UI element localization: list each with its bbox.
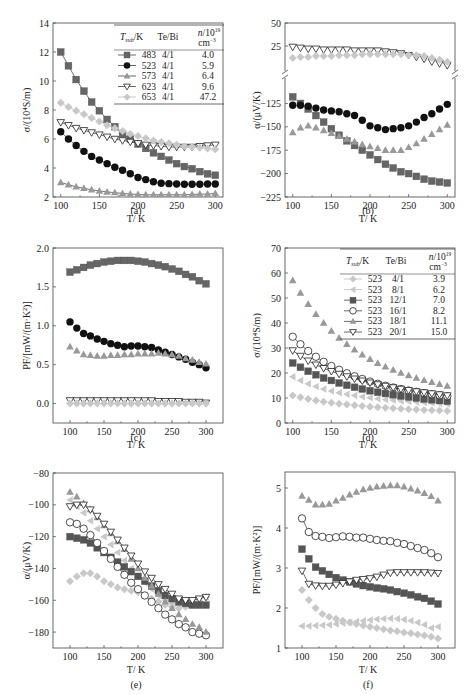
data-point-circle-marker	[289, 102, 296, 109]
data-point-circle-open-marker	[196, 630, 203, 637]
data-point-triangle-marker	[428, 378, 436, 385]
data-point-circle-open-marker	[319, 533, 326, 540]
y-tick-label: 60	[271, 268, 281, 279]
legend-n: 9.6	[202, 82, 214, 92]
data-point-triangle-marker	[358, 351, 366, 358]
y-tick-label: 50	[271, 18, 281, 29]
y-tick-label: 5	[276, 483, 281, 494]
data-point-circle-open-marker	[134, 585, 141, 592]
x-tick-label: 200	[131, 651, 146, 662]
data-point-square-marker	[380, 585, 387, 592]
data-point-square-marker	[359, 147, 366, 154]
data-point-circle-marker	[96, 156, 103, 163]
data-point-triangle-marker	[289, 277, 297, 284]
x-tick-label: 300	[199, 426, 214, 437]
data-point-triangle-left-marker	[304, 380, 311, 388]
legend-n: 3.9	[433, 274, 445, 284]
data-point-triangle-marker	[359, 486, 367, 493]
legend-n: 8.2	[433, 306, 445, 316]
data-point-diamond-marker	[420, 52, 428, 60]
y-tick-label: −225	[260, 192, 281, 203]
legend-tsub: 523	[368, 285, 383, 295]
legend-row: 5234/13.9	[344, 274, 445, 284]
data-point-diamond-marker	[343, 401, 351, 409]
y-axis-label: PF/[mW/(m·K²)]	[21, 301, 33, 370]
data-point-triangle-marker	[428, 130, 436, 137]
panel-b: 100150200250300−225−200−175−150−1252550T…	[251, 18, 458, 225]
data-point-diamond-marker	[312, 604, 320, 612]
data-point-circle-marker	[297, 102, 304, 109]
data-point-circle-marker	[157, 180, 164, 187]
panel-label: (f)	[363, 679, 373, 691]
data-point-circle-open-marker	[182, 624, 189, 631]
data-point-diamond-marker	[381, 404, 389, 412]
data-point-square-marker	[387, 587, 394, 594]
data-point-square-marker	[350, 297, 356, 303]
data-point-diamond-marker	[289, 392, 297, 400]
data-point-circle-open-marker	[289, 333, 296, 340]
data-point-triangle-marker	[382, 363, 390, 370]
data-point-circle-marker	[436, 105, 443, 112]
data-point-triangle-marker	[358, 141, 366, 148]
data-point-triangle-down-open-marker	[427, 570, 435, 577]
data-point-square-marker	[101, 259, 108, 266]
legend-tsub: 523	[368, 327, 383, 337]
panel-a: 1001502002503002468101214T/ Kσ/(10⁴S/m)(…	[21, 18, 224, 225]
data-point-circle-marker	[204, 180, 211, 187]
data-point-triangle-marker	[353, 488, 361, 495]
data-point-triangle-marker	[374, 144, 382, 151]
data-point-diamond-marker	[393, 627, 401, 635]
data-point-triangle-marker	[421, 489, 429, 496]
data-point-circle-marker	[80, 148, 87, 155]
data-point-square-marker	[289, 93, 296, 100]
data-point-diamond-marker	[312, 397, 320, 405]
data-point-diamond-marker	[80, 110, 88, 118]
data-point-square-marker	[407, 591, 414, 598]
data-point-diamond-marker	[389, 404, 397, 412]
data-point-circle-marker	[150, 178, 157, 185]
data-point-triangle-down-open-marker	[297, 353, 305, 360]
data-point-diamond-marker	[142, 134, 150, 142]
data-point-triangle-marker	[339, 494, 347, 501]
data-point-triangle-marker	[289, 128, 297, 135]
data-point-diamond-marker	[304, 395, 312, 403]
data-point-triangle-left-marker	[320, 385, 327, 393]
legend-row: 5238/16.2	[344, 285, 445, 295]
data-point-triangle-left-marker	[393, 615, 400, 623]
legend-tebi: 4/1	[162, 61, 174, 71]
x-tick-label: 150	[324, 200, 339, 211]
data-point-square-marker	[203, 280, 210, 287]
data-point-triangle-left-marker	[93, 525, 100, 533]
series-layer	[57, 49, 220, 198]
data-point-circle-marker	[80, 330, 87, 337]
data-point-triangle-marker	[114, 351, 122, 358]
data-point-triangle-down-open-marker	[434, 570, 442, 577]
panel-label: (a)	[130, 205, 141, 217]
data-point-diamond-marker	[427, 633, 435, 641]
data-point-triangle-marker	[142, 191, 150, 198]
data-point-circle-marker	[134, 174, 141, 181]
series-523-k	[66, 318, 209, 371]
legend-row: 52316/18.2	[344, 306, 445, 316]
data-point-square-marker	[305, 555, 312, 562]
data-point-diamond-marker	[414, 630, 422, 638]
data-point-circle-marker	[328, 107, 335, 114]
x-tick-label: 100	[63, 651, 78, 662]
data-point-square-marker	[444, 180, 451, 187]
data-point-diamond-marker	[434, 634, 442, 642]
data-point-square-marker	[373, 585, 380, 592]
data-point-square-marker	[189, 165, 196, 172]
legend-tebi: 20/1	[390, 327, 407, 337]
data-point-circle-marker	[359, 117, 366, 124]
data-point-diamond-marker	[72, 107, 80, 115]
data-point-circle-marker	[121, 343, 128, 350]
data-point-circle-open-marker	[414, 544, 421, 551]
data-point-diamond-marker	[335, 51, 343, 59]
data-point-triangle-marker	[420, 135, 428, 142]
data-point-diamond-marker	[95, 118, 103, 126]
data-point-circle-marker	[413, 118, 420, 125]
panel-f: 10015020025030012345T/ KPF/[mW/(m·K²)](f…	[251, 472, 455, 691]
data-point-triangle-marker	[66, 488, 74, 495]
data-point-triangle-left-marker	[297, 377, 304, 385]
data-point-square-marker	[305, 368, 312, 375]
